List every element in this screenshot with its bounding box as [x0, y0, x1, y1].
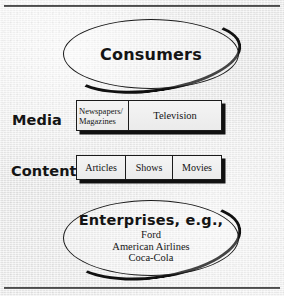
media-cell-newspapers-line2: Magazines — [79, 116, 123, 126]
bottom-rule — [4, 287, 280, 289]
media-row: Newspapers/ Magazines Television — [76, 100, 222, 131]
enterprise-example-ford: Ford — [141, 229, 161, 241]
content-cell-articles[interactable]: Articles — [77, 156, 126, 179]
media-cell-newspapers-magazines[interactable]: Newspapers/ Magazines — [77, 101, 129, 130]
content-row: Articles Shows Movies — [76, 155, 222, 180]
row-label-content: Content — [11, 163, 77, 179]
top-rule — [4, 5, 280, 7]
enterprise-example-coca-cola: Coca-Cola — [129, 252, 174, 264]
media-cell-newspapers-line1: Newspapers/ — [79, 106, 123, 116]
consumers-label: Consumers — [100, 45, 202, 64]
content-cell-movies[interactable]: Movies — [173, 156, 221, 179]
row-label-media: Media — [12, 112, 62, 128]
enterprise-example-american-airlines: American Airlines — [112, 241, 189, 253]
consumers-ellipse: Consumers — [63, 19, 239, 89]
enterprises-label: Enterprises, e.g., — [79, 212, 224, 228]
media-cell-television[interactable]: Television — [129, 101, 221, 130]
content-cell-shows[interactable]: Shows — [126, 156, 173, 179]
media-value-chain-diagram: Consumers Media Newspapers/ Magazines Te… — [0, 0, 284, 296]
enterprises-ellipse: Enterprises, e.g., Ford American Airline… — [63, 200, 239, 276]
